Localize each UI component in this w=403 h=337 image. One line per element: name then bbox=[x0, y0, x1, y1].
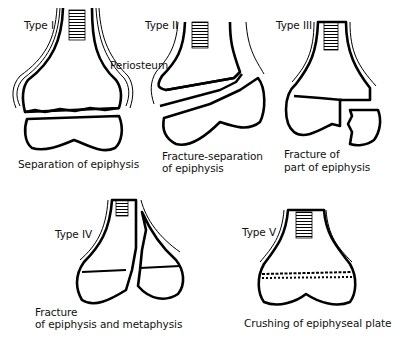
type-label: Type IV bbox=[55, 228, 92, 240]
caption-line: part of epiphysis bbox=[284, 161, 370, 173]
type-label: Type I bbox=[24, 19, 54, 31]
caption-line: Fracture-separation bbox=[162, 150, 263, 162]
panel-type-5: Type V Crushing of epiphyseal plate bbox=[200, 190, 403, 337]
caption-line: of epiphysis bbox=[162, 162, 224, 174]
caption-line: Separation of epiphysis bbox=[18, 158, 139, 170]
panel-type-3: Type III Fracture of part of epiphysis bbox=[270, 0, 403, 190]
type-4-bone-illustration bbox=[0, 190, 200, 337]
caption-line: Crushing of epiphyseal plate bbox=[244, 317, 391, 329]
caption-line: Fracture of bbox=[284, 148, 339, 160]
caption-line: Fracture bbox=[35, 306, 77, 318]
caption-line: of epiphysis and metaphysis bbox=[35, 318, 182, 330]
type-label: Type II bbox=[145, 19, 178, 31]
type-5-bone-illustration bbox=[200, 190, 403, 337]
panel-type-4: Type IV Fracture of epiphysis and metaph… bbox=[0, 190, 200, 337]
type-label: Type V bbox=[242, 226, 276, 238]
panel-type-2: Type II Fracture-separation of epiphysis bbox=[140, 0, 275, 190]
panel-type-1: Type I Periosteum Separation of epiphysi… bbox=[0, 0, 135, 190]
type-label: Type III bbox=[276, 19, 312, 31]
